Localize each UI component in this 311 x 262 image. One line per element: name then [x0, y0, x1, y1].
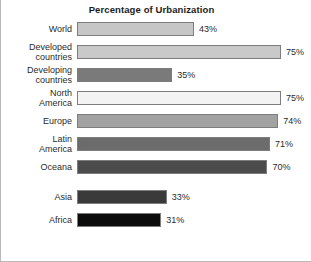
bar	[77, 137, 270, 151]
bar-track	[77, 45, 281, 59]
bar-row: Asia33%	[1, 190, 311, 204]
bar-value-label: 43%	[199, 24, 217, 34]
bar-value-label: 35%	[177, 70, 195, 80]
bar-value-label: 75%	[286, 93, 304, 103]
bar-track	[77, 137, 270, 151]
bar-track	[77, 91, 281, 105]
bar-track	[77, 68, 172, 82]
bar-track	[77, 213, 161, 227]
bar-row: Latin America71%	[1, 137, 311, 151]
bar-category-label: World	[1, 24, 72, 34]
bar-row: Europe74%	[1, 114, 311, 128]
bar-value-label: 75%	[286, 47, 304, 57]
bar-category-label: North America	[1, 88, 72, 108]
bar	[77, 91, 281, 105]
bar-value-label: 74%	[283, 116, 301, 126]
bar-category-label: Africa	[1, 215, 72, 225]
bar-track	[77, 190, 167, 204]
bar	[77, 45, 281, 59]
bar-row: Developing countries35%	[1, 68, 311, 82]
bar-value-label: 71%	[275, 139, 293, 149]
bar-track	[77, 160, 267, 174]
bar	[77, 114, 278, 128]
bar-value-label: 33%	[172, 192, 190, 202]
bar	[77, 213, 161, 227]
bar-value-label: 70%	[272, 162, 290, 172]
bar	[77, 160, 267, 174]
bar-category-label: Asia	[1, 192, 72, 202]
bar	[77, 68, 172, 82]
bar-category-label: Europe	[1, 116, 72, 126]
chart-title: Percentage of Urbanization	[1, 4, 302, 15]
bar-row: Developed countries75%	[1, 45, 311, 59]
bar-row: Africa31%	[1, 213, 311, 227]
bar-category-label: Developing countries	[1, 65, 72, 85]
bar	[77, 22, 194, 36]
bar-row: World43%	[1, 22, 311, 36]
bar-value-label: 31%	[166, 215, 184, 225]
bar-category-label: Developed countries	[1, 42, 72, 62]
bar-row: North America75%	[1, 91, 311, 105]
bar-category-label: Latin America	[1, 134, 72, 154]
bar-row: Oceana70%	[1, 160, 311, 174]
bar-track	[77, 114, 278, 128]
bar-category-label: Oceana	[1, 162, 72, 172]
bar	[77, 190, 167, 204]
bar-chart: Percentage of Urbanization World43%Devel…	[0, 0, 311, 262]
bar-track	[77, 22, 194, 36]
